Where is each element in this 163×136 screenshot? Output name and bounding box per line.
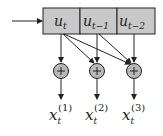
output-label-3: xt(3) (122, 102, 145, 126)
output-label-1: xt(1) (49, 102, 72, 126)
output-label-2: xt(2) (85, 102, 108, 126)
tap-arrow-ut1-to-adder3 (99, 34, 131, 63)
adder-3 (127, 64, 142, 79)
tap-arrow-ut-to-adder2 (63, 34, 94, 63)
adder-1 (54, 64, 69, 79)
adder-2 (90, 64, 105, 79)
convolutional-encoder-diagram: ut ut−1 ut−2 xt(1) xt(2) xt(3) (0, 0, 163, 136)
